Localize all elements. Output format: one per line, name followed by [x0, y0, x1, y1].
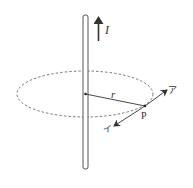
arrow-a-label: ア — [168, 85, 177, 95]
diagram-canvas: I r P ア イ — [0, 0, 193, 188]
diagram: I r P ア イ — [0, 0, 193, 188]
straight-wire — [83, 15, 88, 169]
arrow-a — [145, 90, 167, 106]
radius-label: r — [111, 88, 116, 100]
point-label: P — [141, 110, 147, 121]
arrow-b-label: イ — [103, 124, 112, 134]
current-label: I — [104, 23, 110, 37]
